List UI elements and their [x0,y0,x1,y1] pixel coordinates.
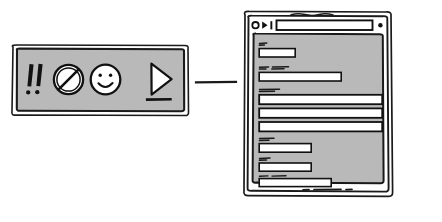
url-input[interactable] [277,20,373,30]
form-field-8[interactable] [259,179,331,187]
form-field-6[interactable] [259,144,311,153]
stop-bar-icon[interactable] [270,21,272,29]
prohibited-icon[interactable] [54,65,83,94]
form-field-4[interactable] [259,108,382,117]
smiley-eye-left [99,74,102,77]
menu-dot-icon[interactable] [378,23,382,27]
connector-line [196,82,236,83]
smiley-eye-right [109,74,112,77]
smiley-head [91,65,121,95]
smiley-face-icon[interactable] [91,65,121,95]
exclamation-dot-2 [35,90,39,94]
exclamation-dot-1 [26,90,30,94]
wireframe-sketch-canvas [0,0,442,222]
form-field-2[interactable] [259,72,341,81]
icon-toolbar-panel[interactable] [12,45,189,116]
form-field-5[interactable] [259,122,382,131]
form-field-7[interactable] [259,163,311,171]
browser-window-sketch[interactable] [244,11,393,196]
form-field-3[interactable] [259,95,382,104]
form-field-1[interactable] [259,49,295,57]
